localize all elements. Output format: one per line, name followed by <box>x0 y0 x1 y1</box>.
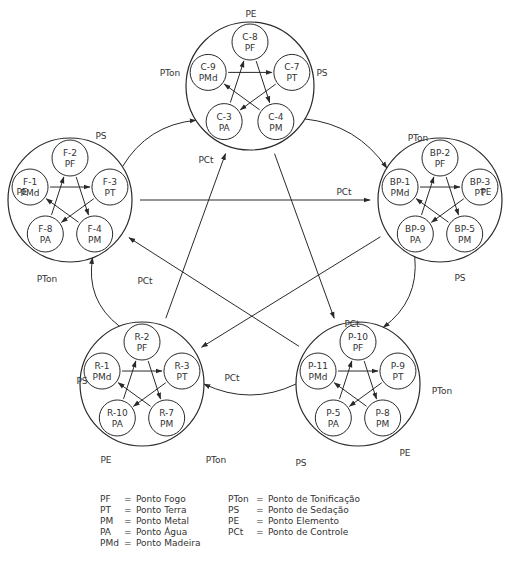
point-role-label: PCt <box>198 155 214 165</box>
point-type: PT <box>392 372 403 382</box>
point-bp-9: BP-9PA <box>397 216 433 252</box>
point-type: PA <box>410 235 422 245</box>
legend-row: PMd=Ponto Madeira <box>100 538 200 549</box>
group-c: C-8PFC-7PTC-4PMC-3PAC-9PMdPEPSPCtPTon <box>160 9 328 165</box>
point-role-label: PE <box>16 187 27 197</box>
point-bp-5: BP-5PM <box>447 216 483 252</box>
point-code: F-3 <box>103 177 117 187</box>
legend-equals: = <box>124 527 136 538</box>
point-code: BP-5 <box>454 224 474 234</box>
generation-arrow <box>383 257 415 328</box>
point-code: P-8 <box>376 408 390 418</box>
group-bp: BP-2PFBP-3PTBP-5PMBP-9PABP-1PMdPTonPEPSP… <box>336 133 502 283</box>
point-r-2: R-2PF <box>124 324 160 360</box>
control-arrow <box>364 361 376 399</box>
point-role-label: PCt <box>336 187 352 197</box>
point-code: BP-3 <box>470 177 490 187</box>
control-arrow <box>421 177 433 215</box>
point-code: C-8 <box>242 32 258 42</box>
legend-abbr: PS <box>228 505 256 516</box>
point-type: PT <box>176 372 187 382</box>
control-arrow <box>339 361 351 399</box>
group-p: P-10PFP-9PTP-8PMP-5PAP-11PMdPCtPTonPSPE <box>295 319 452 468</box>
legend-row: PF=Ponto Fogo <box>100 494 200 505</box>
legend-abbr: PCt <box>228 527 256 538</box>
point-code: C-3 <box>217 112 232 122</box>
point-type: PA <box>112 419 124 429</box>
point-type: PM <box>88 235 101 245</box>
point-role-label: PS <box>295 458 306 468</box>
point-code: R-3 <box>175 361 190 371</box>
element-groups: C-8PFC-7PTC-4PMC-3PAC-9PMdPEPSPCtPTonF-2… <box>8 9 502 468</box>
point-code: P-11 <box>308 361 328 371</box>
point-code: C-4 <box>268 112 284 122</box>
point-p-9: P-9PT <box>380 353 416 389</box>
control-arrow <box>51 177 63 215</box>
legend-equals: = <box>124 538 136 549</box>
point-type: PT <box>286 73 297 83</box>
legend-row: PS=Ponto de Sedação <box>228 505 360 516</box>
generation-arrow <box>122 120 196 167</box>
point-code: BP-2 <box>430 148 450 158</box>
control-arrow <box>148 361 160 399</box>
point-f-8: F-8PA <box>27 216 63 252</box>
point-c-7: C-7PT <box>274 54 310 90</box>
point-c-9: C-9PMd <box>190 54 226 90</box>
point-code: P-9 <box>391 361 405 371</box>
point-c-3: C-3PA <box>206 104 242 140</box>
point-type: PA <box>219 123 231 133</box>
point-p-11: P-11PMd <box>300 353 336 389</box>
point-code: R-7 <box>159 408 174 418</box>
legend-desc: Ponto Água <box>136 527 187 538</box>
legend-left: PF=Ponto FogoPT=Ponto TerraPM=Ponto Meta… <box>100 494 200 549</box>
legend-equals: = <box>256 527 268 538</box>
point-role-label: PE <box>399 448 410 458</box>
point-code: BP-1 <box>390 177 410 187</box>
point-r-3: R-3PT <box>164 353 200 389</box>
point-code: F-4 <box>88 224 102 234</box>
point-role-label: PCt <box>224 373 240 383</box>
legend-row: PT=Ponto Terra <box>100 505 200 516</box>
point-type: PF <box>65 159 76 169</box>
point-type: PF <box>435 159 446 169</box>
point-role-label: PS <box>95 131 106 141</box>
point-f-4: F-4PM <box>77 216 113 252</box>
control-cycle-arrows <box>129 154 380 348</box>
generation-arrow <box>204 384 296 395</box>
point-f-3: F-3PT <box>92 169 128 205</box>
point-type: PM <box>376 419 389 429</box>
point-type: PA <box>328 419 340 429</box>
point-role-label: PE <box>245 9 256 19</box>
point-bp-1: BP-1PMd <box>382 169 418 205</box>
legend-row: PTon=Ponto de Tonificação <box>228 494 360 505</box>
legend-abbr: PA <box>100 527 124 538</box>
point-role-label: PE <box>100 455 111 465</box>
point-role-label: PE <box>480 187 491 197</box>
legend-row: PE=Ponto Elemento <box>228 516 360 527</box>
legend-desc: Ponto de Tonificação <box>268 494 360 505</box>
legend-abbr: PMd <box>100 538 124 549</box>
point-type: PF <box>137 343 148 353</box>
point-type: PF <box>353 343 364 353</box>
point-code: R-2 <box>135 332 150 342</box>
point-c-8: C-8PF <box>232 24 268 60</box>
legend-abbr: PTon <box>228 494 256 505</box>
legend-row: PM=Ponto Metal <box>100 516 200 527</box>
legend-desc: Ponto Terra <box>136 505 186 516</box>
group-r: R-2PFR-3PTR-7PMR-10PAR-1PMdPSPCtPEPTon <box>76 322 240 465</box>
legend-row: PA=Ponto Água <box>100 527 200 538</box>
point-role-label: PTon <box>37 274 58 284</box>
point-role-label: PTon <box>432 386 453 396</box>
point-type: PM <box>269 123 282 133</box>
five-element-diagram: C-8PFC-7PTC-4PMC-3PAC-9PMdPEPSPCtPTonF-2… <box>0 0 511 574</box>
point-code: R-10 <box>107 408 128 418</box>
point-r-7: R-7PM <box>149 400 185 436</box>
point-code: C-9 <box>201 62 217 72</box>
point-code: P-5 <box>326 408 340 418</box>
point-c-4: C-4PM <box>258 104 294 140</box>
point-r-1: R-1PMd <box>84 353 120 389</box>
legend-abbr: PT <box>100 505 124 516</box>
point-role-label: PTon <box>206 455 227 465</box>
point-role-label: PCt <box>137 276 153 286</box>
legend-desc: Ponto Madeira <box>136 538 200 549</box>
